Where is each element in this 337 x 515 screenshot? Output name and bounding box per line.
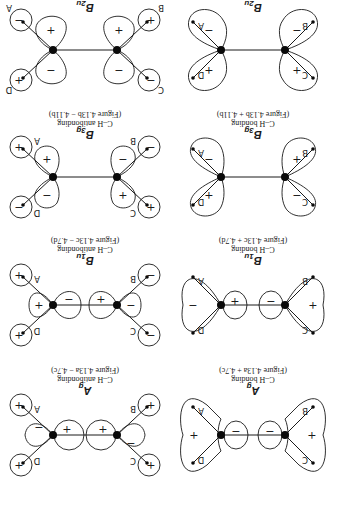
hydrogen-atom-c	[311, 203, 315, 207]
carbon-atom-right	[217, 431, 225, 439]
sign-h-a: +	[14, 399, 23, 412]
h-label-d: D	[33, 208, 40, 218]
h-label-a: A	[34, 404, 40, 414]
h-label-c: C	[130, 208, 136, 218]
hydrogen-atom-d	[191, 203, 195, 207]
h-label-a: A	[198, 21, 204, 31]
sign-bottom-left: −	[292, 24, 301, 37]
sign-top-right: −	[46, 64, 55, 77]
carbon-atom-left	[113, 173, 121, 181]
sign-right-inner: −	[231, 425, 240, 438]
caption-line-2: (Figure 4.13b + 4.11b)	[216, 110, 289, 119]
sign-right-outer: −	[188, 299, 197, 312]
h-label-d: D	[197, 455, 204, 465]
h-label-b: B	[302, 406, 308, 416]
sign-h-c: −	[146, 74, 155, 87]
symmetry-label: B2u	[244, 0, 261, 14]
h-label-c: C	[302, 70, 308, 80]
caption-line-1: C–H bonding	[231, 119, 274, 128]
sign-h-c: −	[146, 329, 155, 342]
carbon-atom-right	[217, 301, 225, 309]
caption-line-1: C–H bonding	[231, 0, 274, 1]
h-label-c: C	[302, 197, 308, 207]
hydrogen-atom-c	[311, 331, 315, 335]
caption-line-1: C–H antibonding	[57, 0, 112, 1]
carbon-atom-left	[113, 431, 121, 439]
h-label-b: B	[130, 136, 136, 146]
sign-h-b: −	[146, 141, 155, 154]
sign-top-right: −	[42, 189, 51, 202]
carbon-atom-right	[217, 173, 225, 181]
sign-left-inner: +	[96, 293, 105, 306]
sign-left-outer: +	[307, 429, 316, 442]
sign-bottom-left: +	[114, 24, 123, 37]
h-label-d: D	[33, 326, 40, 336]
caption-line-2: (Figure 4.13c + 4.7d)	[219, 236, 288, 245]
sign-right-inner: +	[230, 295, 239, 308]
h-label-d: D	[197, 70, 204, 80]
h-label-a: A	[34, 274, 40, 284]
h-label-a: A	[198, 276, 204, 286]
panel-b2u-antibonding: C B D A − + + − − + − + B2u C–H antibond…	[5, 0, 164, 95]
h-label-a: A	[198, 148, 204, 158]
sign-top-left: +	[118, 189, 127, 202]
carbon-atom-left	[281, 301, 289, 309]
sign-right-outer: −	[34, 421, 43, 434]
caption-line-1: C–H antibonding	[57, 375, 112, 384]
hydrogen-atom-a	[191, 147, 195, 151]
h-label-d: D	[33, 456, 40, 466]
hydrogen-atom-a	[191, 405, 195, 409]
panel-b3g-bonding: C B D A − + + − B3g C–H bonding (Figure …	[190, 110, 315, 216]
sign-h-b: −	[146, 269, 155, 282]
sign-left-inner: −	[265, 425, 274, 438]
h-label-b: B	[130, 404, 136, 414]
caption-line-2: (Figure 4.13a − 4.7c)	[51, 366, 119, 375]
carbon-atom-right	[49, 173, 57, 181]
sign-top-right: +	[204, 189, 213, 202]
h-label-c: C	[302, 325, 308, 335]
hydrogen-atom-c	[311, 461, 315, 465]
sign-left-outer: −	[126, 299, 135, 312]
hydrogen-atom-a	[191, 20, 195, 24]
sign-top-left: +	[292, 64, 301, 77]
h-label-c: C	[130, 456, 136, 466]
sign-bottom-right: +	[42, 153, 51, 166]
carbon-atom-left	[281, 431, 289, 439]
carbon-atom-right	[49, 431, 57, 439]
carbon-atom-left	[113, 301, 121, 309]
sign-h-c: +	[146, 201, 155, 214]
sign-h-d: +	[14, 329, 23, 342]
caption-line-1: C–H antibonding	[57, 119, 112, 128]
h-label-d: D	[197, 325, 204, 335]
panel-b1u-bonding: C B D A + − − + B1u C–H bonding (Figure …	[182, 236, 324, 335]
sign-h-a: −	[14, 14, 23, 27]
panel-ag-antibonding: C B D A + + + + − − + + Ag C–H antibondi…	[10, 366, 160, 476]
sign-h-c: +	[146, 459, 155, 472]
caption-line-2: (Figure 4.13a + 4.7c)	[219, 366, 287, 375]
carbon-atom-left	[281, 46, 289, 54]
sign-right-inner: +	[62, 423, 71, 436]
hydrogen-atom-c	[311, 76, 315, 80]
carbon-atom-right	[49, 301, 57, 309]
sign-bottom-left: +	[292, 153, 301, 166]
caption-line-2: (Figure 4.13c − 4.7d)	[51, 236, 120, 245]
orbital-diagram: C B D A + + − − Ag C–H bonding (Figure 4…	[0, 0, 337, 515]
h-label-d: D	[197, 197, 204, 207]
panel-b1u-antibonding: C B D A − − + + − + + − B1u C–H antibond…	[10, 236, 160, 346]
sign-bottom-left: −	[118, 153, 127, 166]
sign-bottom-right: +	[46, 24, 55, 37]
panel-ag-bonding: C B D A + + − − Ag C–H bonding (Figure 4…	[181, 366, 326, 471]
hydrogen-atom-b	[311, 20, 315, 24]
sign-left-inner: +	[98, 423, 107, 436]
sign-h-d: +	[14, 459, 23, 472]
carbon-atom-right	[49, 46, 57, 54]
h-label-b: B	[130, 274, 136, 284]
hydrogen-atom-d	[191, 76, 195, 80]
h-label-a: A	[198, 406, 204, 416]
sign-h-b: +	[146, 14, 155, 27]
sign-top-left: −	[114, 64, 123, 77]
h-label-a: A	[34, 136, 40, 146]
sign-top-left: −	[292, 189, 301, 202]
hydrogen-atom-b	[311, 405, 315, 409]
h-label-d: D	[5, 85, 12, 95]
